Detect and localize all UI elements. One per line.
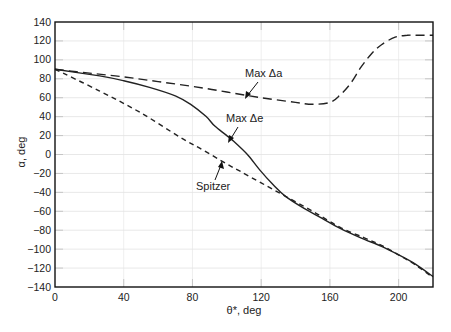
x-tick-label: 120 — [252, 291, 270, 303]
x-axis-ticks: 04080120160200 — [52, 291, 407, 303]
label-spitzer: Spitzer — [196, 180, 231, 192]
chart: 140120100806040200−20−40−60−80−100−120−1… — [0, 0, 451, 332]
annotation-max-da: Max Δa — [245, 67, 283, 99]
y-tick-label: −120 — [27, 262, 51, 274]
x-tick-label: 0 — [52, 291, 58, 303]
y-tick-label: 40 — [39, 110, 51, 122]
label-max-da: Max Δa — [245, 67, 283, 79]
y-tick-label: −60 — [33, 205, 51, 217]
x-tick-label: 40 — [118, 291, 130, 303]
y-tick-label: −40 — [33, 186, 51, 198]
y-tick-label: 120 — [33, 34, 51, 46]
label-max-de: Max Δe — [226, 112, 263, 124]
y-tick-label: 20 — [39, 129, 51, 141]
y-tick-label: 0 — [45, 148, 51, 160]
y-tick-label: −100 — [27, 243, 51, 255]
y-tick-label: 100 — [33, 53, 51, 65]
y-axis-title: α, deg — [15, 137, 27, 168]
series-max-e — [55, 69, 433, 276]
annotation-max-de: Max Δe — [226, 112, 263, 143]
x-axis-title: θ*, deg — [227, 304, 262, 316]
y-tick-label: −80 — [33, 224, 51, 236]
x-tick-label: 160 — [321, 291, 339, 303]
y-tick-label: 80 — [39, 72, 51, 84]
x-tick-label: 80 — [187, 291, 199, 303]
y-tick-label: 60 — [39, 91, 51, 103]
data-series — [55, 35, 433, 277]
y-axis-ticks: 140120100806040200−20−40−60−80−100−120−1… — [27, 16, 51, 293]
annotation-spitzer: Spitzer — [196, 161, 231, 192]
gridlines — [55, 22, 433, 287]
arrow-head-icon — [228, 135, 234, 143]
y-tick-label: −20 — [33, 167, 51, 179]
y-tick-label: 140 — [33, 16, 51, 28]
y-tick-label: −140 — [27, 281, 51, 293]
series-max-a — [55, 35, 433, 104]
x-tick-label: 200 — [390, 291, 408, 303]
